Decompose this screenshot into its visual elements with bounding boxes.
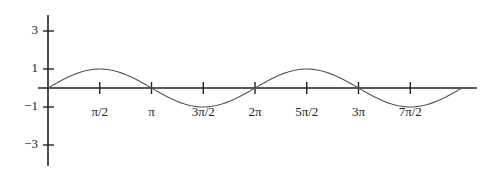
x-tick-label: 5π/2 xyxy=(295,104,318,120)
y-tick-label: −3 xyxy=(18,136,38,152)
x-tick-label: 3π/2 xyxy=(192,104,215,120)
x-tick-label: π xyxy=(148,104,155,120)
y-tick-label: 1 xyxy=(18,60,38,76)
y-tick-label: 3 xyxy=(18,22,38,38)
x-tick-label: π/2 xyxy=(91,104,108,120)
x-tick-label: 2π xyxy=(248,104,261,120)
x-tick-label: 7π/2 xyxy=(399,104,422,120)
y-tick-label: −1 xyxy=(18,98,38,114)
x-tick-label: 3π xyxy=(352,104,365,120)
sine-plot xyxy=(0,0,501,176)
